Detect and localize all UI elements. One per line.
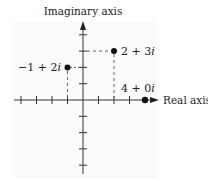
point-label: −1 + 2i: [18, 61, 61, 74]
point-label: 2 + 3i: [121, 45, 155, 58]
imaginary-axis-label: Imaginary axis: [44, 5, 123, 17]
real-axis-label: Real axis: [163, 94, 208, 106]
complex-plane-diagram: Imaginary axis Real axis 2 + 3i: [0, 0, 208, 181]
point-label: 4 + 0i: [121, 82, 155, 95]
point-marker: [65, 64, 71, 70]
point-marker: [111, 48, 117, 54]
point-marker: [142, 97, 148, 103]
